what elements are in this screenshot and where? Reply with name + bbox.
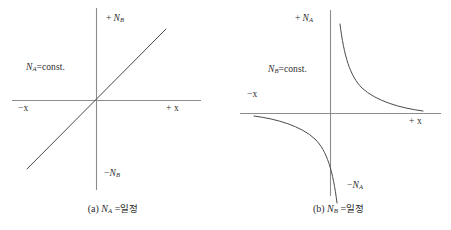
y-axis-negative-label-a: −NB — [104, 168, 120, 178]
x-axis-negative-label-a: −x — [18, 103, 28, 113]
caption-b: (b) NB =일정 — [226, 201, 451, 215]
data-curve-hyperbola-q3 — [254, 116, 337, 203]
x-axis-positive-label-b: + x — [409, 116, 422, 126]
x-axis-positive-label-a: + x — [166, 103, 179, 113]
caption-a: (a) NA =일정 — [0, 201, 226, 215]
y-axis-positive-label-b: + NA — [295, 13, 313, 23]
chart-panel-a: + NB −NB −x + x NA=const. (a) NA =일정 — [0, 0, 226, 230]
y-axis-negative-label-b: −NA — [347, 180, 363, 190]
figure-container: + NB −NB −x + x NA=const. (a) NA =일정 — [0, 0, 451, 230]
annotation-constant-b: NB=const. — [268, 64, 307, 74]
annotation-constant-a: NA=const. — [26, 62, 65, 72]
chart-panel-b: + NA −NA −x + x NB=const. (b) NB =일정 — [226, 0, 451, 230]
panel-a-plot — [0, 0, 226, 230]
data-curve-hyperbola-q1 — [340, 24, 423, 111]
y-axis-positive-label-a: + NB — [106, 13, 124, 23]
panel-b-plot — [226, 0, 451, 230]
x-axis-negative-label-b: −x — [247, 89, 257, 99]
